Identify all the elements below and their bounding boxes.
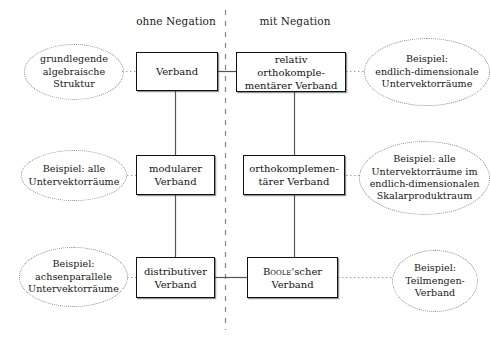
note-line: Beispiel: alle — [29, 163, 120, 175]
node-modularer-verband[interactable]: modularer Verband — [136, 155, 215, 195]
note-line: Untervektorräume im — [370, 166, 480, 178]
node-label-smallcaps: Boole — [263, 266, 292, 277]
note-endlich-dimensionale-untervektorraeume: Beispiel: endlich-dimensionale Untervekt… — [364, 38, 490, 106]
node-label-line: orthokomplemen- — [249, 162, 339, 175]
note-line: grundlegende — [40, 53, 108, 65]
note-line: Beispiel: alle — [370, 153, 480, 165]
node-orthokomplementaerer-verband[interactable]: orthokomplemen- tärer Verband — [243, 155, 345, 195]
node-label-line: tärer Verband — [249, 175, 339, 188]
node-label-line: Verband — [149, 175, 202, 188]
node-label-line: distributiver — [144, 265, 207, 278]
node-distributiver-verband[interactable]: distributiver Verband — [136, 257, 215, 298]
note-alle-untervektorraeume: Beispiel: alle Untervektorräume — [21, 150, 127, 201]
note-line: algebraische — [40, 66, 108, 78]
column-header-mit-negation: mit Negation — [245, 15, 345, 27]
node-label-line: Verband — [156, 65, 198, 78]
note-line: Beispiel: — [28, 258, 119, 270]
column-header-ohne-negation: ohne Negation — [126, 15, 226, 27]
node-label-line: mentärer Verband — [241, 79, 341, 92]
node-verband[interactable]: Verband — [136, 52, 218, 91]
note-line: achsenparallele — [28, 271, 119, 283]
note-achsenparallele-untervektorraeume: Beispiel: achsenparallele Untervektorräu… — [19, 247, 128, 307]
note-line: Beispiel: — [375, 53, 479, 65]
node-label-line: Verband — [144, 278, 207, 291]
node-label-line: relativ orthokomple- — [241, 53, 341, 79]
note-line: Untervektorräume — [375, 78, 479, 90]
note-grundlegende-struktur: grundlegende algebraische Struktur — [24, 44, 124, 100]
note-skalarproduktraum: Beispiel: alle Untervektorräume im endli… — [359, 141, 490, 215]
node-label-line: Boole'scher — [263, 265, 322, 278]
node-label-line: modularer — [149, 162, 202, 175]
lattice-hierarchy-diagram: ohne Negation mit Negation grundlegende … — [0, 0, 491, 341]
note-line: Teilmengen- — [405, 275, 465, 287]
note-line: Untervektorräume — [28, 283, 119, 295]
note-teilmengen-verband: Beispiel: Teilmengen- Verband — [392, 250, 478, 312]
note-line: Struktur — [40, 78, 108, 90]
note-line: endlich-dimensionalen — [370, 178, 480, 190]
node-relativ-orthokomplementaerer-verband[interactable]: relativ orthokomple- mentärer Verband — [236, 52, 346, 92]
node-label-line: Verband — [263, 278, 322, 291]
note-line: endlich-dimensionale — [375, 66, 479, 78]
node-boolescher-verband[interactable]: Boole'scher Verband — [247, 257, 338, 298]
note-line: Verband — [405, 287, 465, 299]
node-label-suffix: 'scher — [291, 266, 322, 277]
note-line: Skalarproduktraum — [370, 190, 480, 202]
note-line: Beispiel: — [405, 262, 465, 274]
note-line: Untervektorräume — [29, 176, 120, 188]
